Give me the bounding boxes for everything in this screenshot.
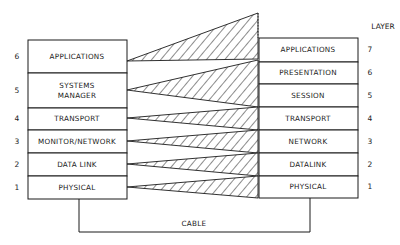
right-layer-number: 1	[368, 182, 373, 191]
right-layer-number: 3	[368, 137, 373, 146]
cable-label: CABLE	[182, 219, 207, 228]
left-layer-6-label: APPLICATIONS	[50, 52, 105, 61]
right-layer-number: 6	[368, 68, 373, 77]
right-layer-5-label: SESSION	[291, 91, 324, 100]
right-layer-2-label: DATALINK	[289, 160, 326, 169]
right-layer-number: 4	[368, 114, 373, 123]
wedge-network	[127, 130, 258, 153]
layer-header: LAYER	[371, 22, 394, 31]
wedge-physical	[127, 176, 258, 198]
left-layer-2-label: DATA LINK	[57, 160, 97, 169]
left-layer-5-label-line1: SYSTEMS	[59, 81, 94, 90]
left-layer-number: 5	[15, 86, 20, 95]
wedge-transport	[127, 107, 258, 130]
left-layer-stack: APPLICATIONS SYSTEMS MANAGER TRANSPORT M…	[28, 40, 127, 199]
right-layer-number: 2	[368, 160, 373, 169]
right-layer-7-label: APPLICATIONS	[281, 45, 336, 54]
layer-mapping-diagram: APPLICATIONS SYSTEMS MANAGER TRANSPORT M…	[0, 0, 400, 245]
right-layer-number: 7	[368, 45, 373, 54]
mapping-wedges	[127, 13, 258, 198]
right-layer-number: 5	[368, 91, 373, 100]
right-layer-6-label: PRESENTATION	[279, 68, 337, 77]
right-layer-stack: APPLICATIONS PRESENTATION SESSION TRANSP…	[259, 38, 358, 198]
cable-connection: CABLE	[79, 198, 310, 232]
wedge-applications	[127, 13, 258, 61]
left-layer-number: 3	[15, 137, 20, 146]
left-layer-number: 1	[15, 183, 20, 192]
left-layer-3-label: MONITOR/NETWORK	[38, 137, 116, 146]
right-layer-1-label: PHYSICAL	[289, 182, 326, 191]
wedge-datalink	[127, 153, 258, 176]
left-layer-number: 4	[15, 114, 20, 123]
left-layer-5-label-line2: MANAGER	[58, 91, 97, 100]
right-layer-3-label: NETWORK	[289, 137, 328, 146]
left-layer-1-label: PHYSICAL	[58, 183, 95, 192]
left-layer-numbers: 6 5 4 3 2 1	[15, 52, 20, 192]
wedge-systems-manager	[127, 60, 258, 107]
right-layer-numbers: LAYER 7 6 5 4 3 2 1	[368, 22, 395, 191]
left-layer-number: 2	[15, 160, 20, 169]
left-layer-4-label: TRANSPORT	[53, 114, 100, 123]
left-layer-number: 6	[15, 52, 20, 61]
right-layer-4-label: TRANSPORT	[284, 114, 331, 123]
